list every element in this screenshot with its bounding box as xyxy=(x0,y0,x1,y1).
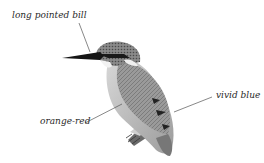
label-vivid-blue: vivid blue xyxy=(216,91,260,100)
label-long-pointed-bill: long pointed bill xyxy=(12,11,87,20)
leader-bill xyxy=(79,23,90,52)
label-orange-red: orange-red xyxy=(40,117,90,126)
leader-orange xyxy=(85,104,122,123)
kingfisher-illustration xyxy=(0,0,264,163)
leader-blue xyxy=(174,97,212,112)
kingfisher-diagram: long pointed bill vivid blue orange-red xyxy=(0,0,264,163)
bird-head xyxy=(62,42,140,68)
